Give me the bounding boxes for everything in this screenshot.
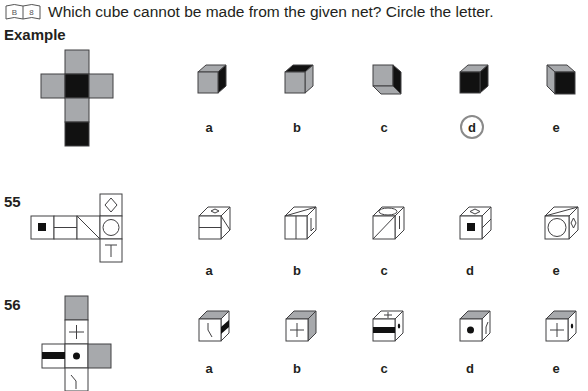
- option-label-a[interactable]: a: [194, 120, 224, 135]
- option-label-c[interactable]: c: [369, 120, 399, 135]
- example-net: [40, 50, 140, 150]
- option-label-b[interactable]: b: [282, 120, 312, 135]
- option-label-e[interactable]: e: [541, 361, 571, 376]
- net-face: [88, 344, 111, 368]
- cube-56-e: [545, 310, 585, 350]
- instruction-row: B 8 Which cube cannot be made from the g…: [4, 2, 493, 22]
- example-cube-b: [283, 64, 323, 104]
- cube-56-b: [285, 310, 325, 350]
- option-label-a[interactable]: a: [194, 263, 224, 278]
- question-number-55: 55: [4, 193, 21, 210]
- option-label-d[interactable]: d: [455, 361, 485, 376]
- net-face: [65, 296, 88, 320]
- circle-symbol: [103, 220, 119, 236]
- option-label-b[interactable]: b: [282, 263, 312, 278]
- net-56: [40, 295, 120, 391]
- book-letter-right: 8: [29, 8, 34, 17]
- option-label-d[interactable]: d: [455, 263, 485, 278]
- option-label-b[interactable]: b: [282, 361, 312, 376]
- net-face: [65, 98, 89, 122]
- net-face: [65, 74, 89, 98]
- example-cube-d: [458, 64, 498, 104]
- circled-answer[interactable]: d: [460, 115, 484, 139]
- option-label-c[interactable]: c: [369, 361, 399, 376]
- dot-symbol: [73, 353, 80, 360]
- book-icon: B 8: [4, 3, 42, 21]
- example-cube-c: [371, 64, 411, 104]
- cube-55-d: [459, 206, 499, 248]
- black-square-symbol: [38, 223, 46, 231]
- cube-55-a: [198, 206, 238, 248]
- option-label-d: d: [468, 120, 476, 135]
- instruction-text: Which cube cannot be made from the given…: [48, 3, 493, 21]
- option-label-c[interactable]: c: [369, 263, 399, 278]
- cube-56-c: [372, 310, 412, 350]
- question-number-56: 56: [4, 296, 21, 313]
- option-label-e[interactable]: e: [541, 120, 571, 135]
- net-face: [89, 74, 113, 98]
- cube-55-b: [284, 206, 324, 248]
- cube-55-e: [544, 206, 586, 248]
- example-cube-e: [545, 64, 585, 104]
- option-label-e[interactable]: e: [541, 263, 571, 278]
- black-bar-symbol: [42, 352, 65, 359]
- cube-55-c: [372, 206, 412, 248]
- book-letter-left: B: [12, 8, 17, 17]
- cube-56-a: [198, 310, 238, 350]
- net-face: [65, 50, 89, 74]
- net-face: [41, 74, 65, 98]
- example-label: Example: [4, 26, 66, 43]
- cube-56-d: [459, 310, 499, 350]
- option-label-a[interactable]: a: [194, 361, 224, 376]
- example-cube-a: [196, 64, 236, 104]
- net-face: [65, 122, 89, 146]
- net-55: [30, 193, 130, 273]
